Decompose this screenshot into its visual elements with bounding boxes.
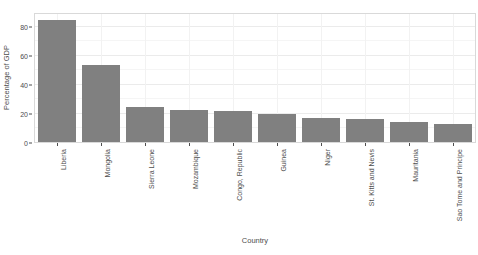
- y-axis-tick-label: 40: [20, 81, 28, 88]
- bar-series: [35, 14, 475, 142]
- x-axis-tick-mark: [321, 143, 322, 146]
- bar[interactable]: [390, 122, 429, 142]
- bar[interactable]: [434, 124, 473, 142]
- x-axis-tick-mark: [365, 143, 366, 146]
- x-axis-tick-label: St. Kitts and Nevis: [368, 149, 375, 206]
- y-axis-tick-label: 80: [20, 23, 28, 30]
- y-axis-tick-label: 0: [24, 140, 28, 147]
- x-axis-tick-label: Niger: [324, 149, 331, 166]
- x-axis-tick-label: Liberia: [60, 149, 67, 170]
- y-axis-tick-mark: [29, 26, 32, 27]
- x-axis-tick-mark: [409, 143, 410, 146]
- x-axis-tick-label: Sao Tome and Principe: [456, 149, 463, 221]
- y-axis-tick-mark: [29, 55, 32, 56]
- x-axis-tick-mark: [189, 143, 190, 146]
- bar[interactable]: [82, 65, 121, 142]
- x-axis-tick-mark: [145, 143, 146, 146]
- x-axis-title: Country: [34, 236, 476, 245]
- x-axis-tick-label: Guinea: [280, 149, 287, 172]
- bar[interactable]: [170, 110, 209, 142]
- bar[interactable]: [126, 107, 165, 142]
- y-axis-tick-label: 60: [20, 52, 28, 59]
- bar-chart: Percentage of GDP 020406080 LiberiaMongo…: [0, 0, 478, 255]
- x-axis-tick-label: Mozambique: [192, 149, 199, 189]
- plot-panel: [34, 13, 476, 143]
- bar[interactable]: [302, 118, 341, 142]
- x-axis-tick-label: Sierra Leone: [148, 149, 155, 189]
- bar[interactable]: [214, 111, 253, 142]
- bar[interactable]: [258, 114, 297, 142]
- bar[interactable]: [346, 119, 385, 142]
- x-axis-tick-mark: [277, 143, 278, 146]
- y-axis-tick-mark: [29, 113, 32, 114]
- bar[interactable]: [38, 20, 77, 142]
- y-axis-tick-mark: [29, 84, 32, 85]
- x-axis-tick-mark: [101, 143, 102, 146]
- x-axis-tick-mark: [453, 143, 454, 146]
- x-axis-tick-label: Congo, Republic: [236, 149, 243, 201]
- y-axis-tick-label: 20: [20, 110, 28, 117]
- x-axis-tick-label: Mongolia: [104, 149, 111, 177]
- x-axis-tick-mark: [233, 143, 234, 146]
- y-axis-tick-mark: [29, 143, 32, 144]
- x-axis-ticks: LiberiaMongoliaSierra LeoneMozambiqueCon…: [34, 143, 476, 233]
- y-axis-title-text: Percentage of GDP: [3, 45, 12, 110]
- x-axis-tick-label: Mauritania: [412, 149, 419, 182]
- y-axis-ticks: 020406080: [12, 14, 32, 142]
- x-axis-tick-mark: [57, 143, 58, 146]
